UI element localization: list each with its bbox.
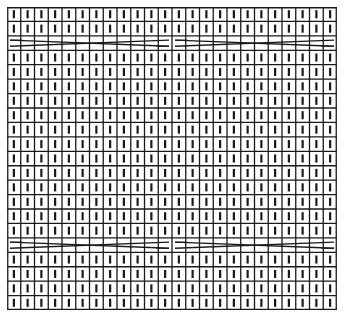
knitting-chart-grid bbox=[7, 7, 337, 310]
knitting-chart-svg bbox=[7, 7, 337, 310]
